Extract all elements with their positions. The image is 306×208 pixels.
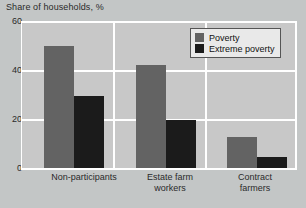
bar-chart: Share of households, % 60 40 20 0 Non-pa… (0, 0, 306, 208)
bar-poverty-contract-farmers (227, 137, 257, 169)
bar-poverty-non-participants (44, 46, 74, 169)
x-axis-line (22, 168, 297, 170)
bar-extreme-poverty-estate-farm-workers (166, 120, 196, 169)
legend-label-extreme-poverty: Extreme poverty (209, 44, 275, 54)
x-category-label-contract-farmers: Contract farmers (200, 172, 306, 194)
legend: Poverty Extreme poverty (190, 28, 281, 58)
chart-title: Share of households, % (6, 2, 104, 12)
gridline-category-separator-1 (113, 21, 115, 169)
legend-swatch-extreme-poverty (195, 44, 204, 53)
legend-label-poverty: Poverty (209, 33, 240, 43)
gridline-plot-right-edge (295, 21, 297, 169)
bar-poverty-estate-farm-workers (136, 65, 166, 169)
legend-item-extreme-poverty: Extreme poverty (195, 43, 275, 54)
bar-extreme-poverty-non-participants (74, 96, 104, 169)
legend-item-poverty: Poverty (195, 32, 275, 43)
gridline-60 (22, 21, 297, 23)
legend-swatch-poverty (195, 33, 204, 42)
